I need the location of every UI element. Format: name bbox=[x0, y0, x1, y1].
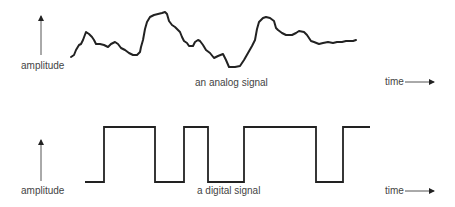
digital-amplitude-label: amplitude bbox=[21, 186, 64, 196]
analog-time-label: time bbox=[385, 77, 404, 87]
digital-waveform bbox=[85, 127, 370, 182]
analog-waveform bbox=[71, 12, 356, 67]
analog-amplitude-label: amplitude bbox=[21, 61, 64, 71]
analog-caption: an analog signal bbox=[195, 78, 268, 88]
digital-caption: a digital signal bbox=[197, 186, 260, 196]
digital-time-label: time bbox=[385, 186, 404, 196]
signals-diagram bbox=[0, 0, 455, 207]
